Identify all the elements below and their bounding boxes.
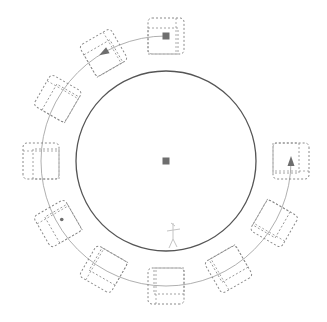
person-sketch-icon [167,223,180,248]
triangle-marker-icon [288,156,295,166]
chair-back [33,149,59,179]
chair-back [273,143,299,173]
chair-back [209,245,248,283]
chair-back [45,204,83,243]
triangle-marker-icon [99,47,109,55]
square-marker-icon [163,33,170,40]
seating-diagram [0,0,327,322]
chair-back [42,84,80,123]
chair-back [154,268,184,294]
chair-back [84,40,123,78]
chair-back [89,248,128,286]
chair-back [253,199,291,238]
center-square-icon [163,158,170,165]
dot-marker-icon [60,218,64,222]
chair-back [148,28,178,54]
